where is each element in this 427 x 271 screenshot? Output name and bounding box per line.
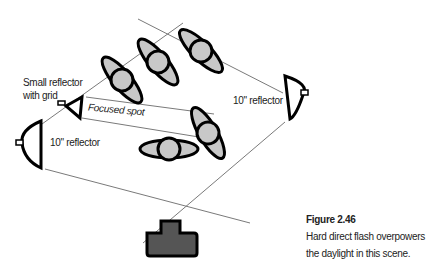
reflector-right-icon [285, 76, 308, 119]
reflector-right-label: 10" reflector [233, 94, 283, 107]
reflector-left-icon [16, 121, 41, 168]
figure-caption: Figure 2.46 Hard direct flash overpowers… [306, 211, 427, 262]
focused-spot-line-bottom [82, 118, 205, 138]
reflector-left-label: 10" reflector [50, 136, 100, 149]
figure-text: Hard direct flash overpowers the dayligh… [306, 231, 425, 259]
beam-line-left-lower [45, 169, 250, 223]
figure-title: Figure 2.46 [306, 211, 427, 228]
small-reflector-label: Small reflector with grid [23, 76, 82, 102]
camera-icon [147, 221, 197, 256]
person-3 [173, 23, 230, 80]
person-5 [140, 138, 198, 160]
